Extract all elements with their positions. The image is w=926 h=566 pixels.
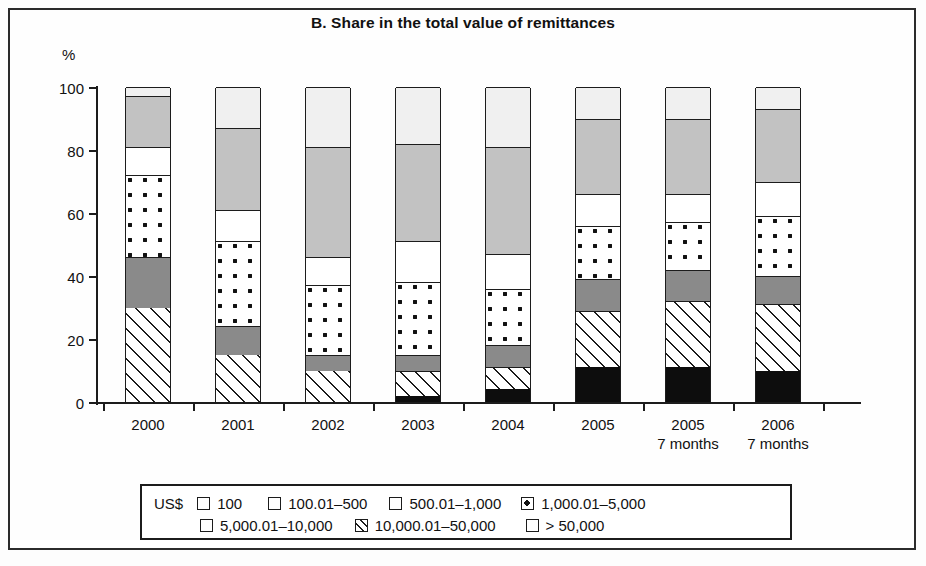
x-axis-label-year: 2005: [581, 416, 614, 433]
bar-segment-100.01-500: [756, 109, 800, 181]
bar-segment-100: [576, 87, 620, 119]
bar-segment-100.01-500: [306, 147, 350, 257]
chart-figure: B. Share in the total value of remittanc…: [0, 0, 926, 566]
legend-currency-label: US$: [154, 495, 183, 512]
legend-item-10000.01-50000: 10,000.01–50,000: [355, 517, 496, 534]
bar-2003: [395, 88, 441, 403]
bar-segment-500.01-1000: [396, 241, 440, 282]
bar-segment-100: [126, 87, 170, 96]
bar-segment-100: [666, 87, 710, 119]
x-axis-label-year: 2004: [491, 416, 524, 433]
bar-2004: [485, 88, 531, 403]
x-tick-mark-3: [373, 403, 375, 411]
bar-2000: [125, 88, 171, 403]
x-axis-label-year: 2002: [311, 416, 344, 433]
bar-segment-5000.01-10000: [576, 279, 620, 311]
bar-segment-10000.01-50000: [756, 304, 800, 370]
bar-segment-500.01-1000: [126, 147, 170, 175]
y-tick-label-20: 20: [38, 332, 84, 349]
x-tick-mark-6: [643, 403, 645, 411]
bar-segment-1000.01-5000: [216, 241, 260, 326]
bar-segment-1000.01-5000: [486, 289, 530, 346]
bar-segment-gt-50000: [396, 396, 440, 402]
legend-swatch-dark-gray-solid-icon: [200, 519, 213, 532]
x-axis-label-period: 7 months: [722, 435, 834, 454]
bar-segment-10000.01-50000: [216, 355, 260, 402]
bar-2001: [215, 88, 261, 403]
x-axis-label-year: 2000: [131, 416, 164, 433]
bar-segment-100.01-500: [216, 128, 260, 210]
bar-segment-gt-50000: [666, 367, 710, 402]
bar-segment-500.01-1000: [486, 254, 530, 289]
bar-segment-gt-50000: [756, 371, 800, 403]
legend-row-2: 5,000.01–10,00010,000.01–50,000> 50,000: [154, 514, 780, 536]
bar-segment-100.01-500: [666, 119, 710, 195]
x-tick-mark-2: [283, 403, 285, 411]
plot-area: [97, 88, 859, 403]
bar-segment-1000.01-5000: [666, 222, 710, 269]
bar-2006-7-months: [755, 88, 801, 403]
bar-segment-1000.01-5000: [396, 282, 440, 354]
y-tick-label-40: 40: [38, 269, 84, 286]
bar-segment-1000.01-5000: [306, 285, 350, 354]
bar-segment-5000.01-10000: [216, 326, 260, 354]
bar-segment-100: [486, 87, 530, 147]
bar-segment-100: [396, 87, 440, 144]
bar-segment-5000.01-10000: [756, 276, 800, 304]
bar-segment-100.01-500: [396, 144, 440, 242]
legend-row-1: US$ 100100.01–500500.01–1,0001,000.01–5,…: [154, 492, 780, 514]
legend-item-gt-50000: > 50,000: [526, 517, 605, 534]
legend-label-gt-50000: > 50,000: [546, 517, 605, 534]
bar-segment-100: [216, 87, 260, 128]
legend-label-100.01-500: 100.01–500: [288, 495, 367, 512]
legend-item-500.01-1000: 500.01–1,000: [389, 495, 501, 512]
x-tick-mark-5: [553, 403, 555, 411]
bar-2005: [575, 88, 621, 403]
legend-label-5000.01-10000: 5,000.01–10,000: [220, 517, 333, 534]
y-tick-label-60: 60: [38, 206, 84, 223]
bar-segment-5000.01-10000: [396, 355, 440, 371]
bar-segment-1000.01-5000: [756, 216, 800, 276]
bar-segment-5000.01-10000: [486, 345, 530, 367]
x-tick-mark-7: [733, 403, 735, 411]
x-axis-label-year: 2003: [401, 416, 434, 433]
bar-2005-7-months: [665, 88, 711, 403]
x-axis-label-7: 20067 months: [722, 416, 834, 454]
bar-segment-500.01-1000: [666, 194, 710, 222]
bar-segment-1000.01-5000: [576, 226, 620, 280]
legend-swatch-light-gray-solid-icon: [197, 497, 210, 510]
y-axis-unit-label: %: [62, 46, 75, 63]
x-tick-mark-4: [463, 403, 465, 411]
legend-item-100: 100: [197, 495, 242, 512]
bar-segment-100: [756, 87, 800, 109]
y-tick-label-80: 80: [38, 143, 84, 160]
legend-label-10000.01-50000: 10,000.01–50,000: [375, 517, 496, 534]
bar-segment-gt-50000: [486, 389, 530, 402]
bar-segment-5000.01-10000: [126, 257, 170, 307]
legend-item-5000.01-10000: 5,000.01–10,000: [200, 517, 333, 534]
legend-swatch-diagonal-hatch-icon: [355, 519, 368, 532]
x-tick-mark-end: [823, 403, 825, 411]
bar-segment-10000.01-50000: [576, 311, 620, 368]
bar-segment-500.01-1000: [216, 210, 260, 242]
legend-label-500.01-1000: 500.01–1,000: [409, 495, 501, 512]
y-tick-label-100: 100: [38, 80, 84, 97]
chart-legend: US$ 100100.01–500500.01–1,0001,000.01–5,…: [140, 484, 792, 540]
bar-segment-10000.01-50000: [396, 371, 440, 396]
legend-swatch-black-solid-icon: [526, 519, 539, 532]
bar-segment-100.01-500: [486, 147, 530, 254]
x-axis-label-year: 2001: [221, 416, 254, 433]
legend-swatch-white-solid-icon: [389, 497, 402, 510]
bar-segment-500.01-1000: [756, 182, 800, 217]
bar-segment-100.01-500: [576, 119, 620, 195]
x-axis-label-year: 2005: [671, 416, 704, 433]
bar-segment-gt-50000: [576, 367, 620, 402]
y-tick-label-0: 0: [38, 395, 84, 412]
bar-segment-10000.01-50000: [126, 308, 170, 403]
bar-segment-10000.01-50000: [306, 371, 350, 403]
bar-segment-100.01-500: [126, 96, 170, 146]
legend-swatch-medium-gray-solid-icon: [268, 497, 281, 510]
legend-item-100.01-500: 100.01–500: [268, 495, 367, 512]
bar-segment-5000.01-10000: [306, 355, 350, 371]
legend-label-100: 100: [217, 495, 242, 512]
